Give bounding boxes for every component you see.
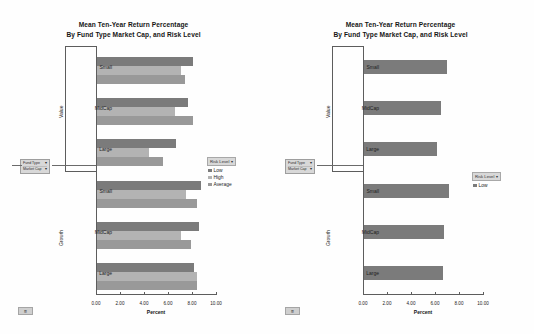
x-tick-3 [435, 292, 436, 295]
grid-icon: ▥ [24, 309, 27, 313]
filter-connector-line-right [52, 165, 96, 166]
bar-growth-small-avg[interactable] [97, 199, 197, 208]
x-axis-label: Percent [363, 309, 483, 315]
x-tick-0 [363, 292, 364, 295]
filter-row-market-cap[interactable]: Market Cap ▾ [23, 166, 47, 172]
x-tick-label-5: 10.00 [477, 301, 489, 306]
x-tick-2 [144, 292, 145, 295]
cat-label-value-small: Small [366, 64, 379, 70]
x-tick-4 [459, 292, 460, 295]
x-tick-0 [96, 292, 97, 295]
group-bracket-mid [332, 171, 364, 172]
bar-growth-small-low[interactable] [97, 181, 201, 190]
bar-growth-midcap-avg[interactable] [97, 240, 191, 249]
chart-panel-right: Mean Ten-Year Return Percentage By Fund … [267, 0, 534, 334]
legend-item-low[interactable]: Low [207, 168, 236, 173]
corner-badge-right[interactable]: ▥ [285, 307, 300, 315]
x-tick-3 [168, 292, 169, 295]
x-axis-line [363, 294, 484, 295]
x-tick-label-0: 0.00 [92, 301, 101, 306]
x-tick-2 [411, 292, 412, 295]
x-axis-label: Percent [96, 309, 216, 315]
filter-box-right[interactable]: Fund Type ▾ Market Cap ▾ [285, 159, 315, 174]
cat-label-value-small: Small [99, 64, 112, 70]
legend-header-risk-level[interactable]: Risk Level ▾ [472, 172, 501, 181]
legend-item-high[interactable]: High [207, 175, 236, 180]
legend-swatch-low-icon [473, 184, 477, 188]
cat-label-value-midcap: MidCap [95, 105, 112, 111]
legend-swatch-high-icon [208, 176, 212, 180]
cat-label-value-large: Large [99, 146, 112, 152]
chart-title-left: Mean Ten-Year Return Percentage By Fund … [0, 20, 267, 39]
bar-growth-midcap-low[interactable] [97, 222, 199, 231]
filter-connector-line [12, 165, 22, 166]
x-tick-1 [120, 292, 121, 295]
legend-header-label: Risk Level [475, 174, 494, 179]
bar-value-large-avg[interactable] [97, 157, 163, 166]
x-tick-5 [483, 292, 484, 295]
filter-label-fund-type: Fund Type [23, 161, 40, 166]
legend-label-average: Average [214, 182, 232, 187]
x-tick-label-4: 8.00 [455, 301, 464, 306]
cat-label-growth-small: Small [99, 188, 112, 194]
grid-icon: ▥ [291, 309, 294, 313]
chart-title-line1: Mean Ten-Year Return Percentage [346, 21, 456, 28]
legend-header-label: Risk Level [210, 159, 229, 164]
cat-label-growth-large: Large [99, 270, 112, 276]
group-label-value: Value [325, 106, 331, 118]
chart-title-right: Mean Ten-Year Return Percentage By Fund … [267, 20, 534, 39]
x-tick-4 [192, 292, 193, 295]
cat-label-growth-small: Small [366, 188, 379, 194]
x-tick-label-4: 8.00 [188, 301, 197, 306]
chevron-down-icon: ▾ [45, 161, 47, 166]
x-tick-label-1: 2.00 [383, 301, 392, 306]
filter-connector-line-right [317, 165, 363, 166]
x-tick-label-0: 0.00 [359, 301, 368, 306]
bar-growth-large-avg[interactable] [97, 281, 197, 290]
legend-item-low[interactable]: Low [472, 183, 501, 188]
legend-right: Risk Level ▾ Low [472, 172, 501, 188]
x-tick-5 [216, 292, 217, 295]
legend-header-risk-level[interactable]: Risk Level ▾ [207, 157, 236, 166]
group-bracket-left [65, 46, 66, 171]
legend-item-average[interactable]: Average [207, 182, 236, 187]
legend-left: Risk Level ▾ Low High Average [207, 157, 236, 187]
bar-value-small-avg[interactable] [97, 75, 185, 84]
chart-panel-left: Mean Ten-Year Return Percentage By Fund … [0, 0, 267, 334]
cat-label-growth-midcap: MidCap [362, 229, 379, 235]
legend-label-high: High [214, 175, 224, 180]
x-tick-label-3: 6.00 [164, 301, 173, 306]
filter-row-market-cap[interactable]: Market Cap ▾ [288, 166, 312, 172]
chevron-down-icon: ▾ [45, 167, 47, 172]
cat-label-growth-large: Large [366, 270, 379, 276]
group-label-value: Value [58, 106, 64, 118]
group-label-growth: Growth [58, 230, 64, 246]
x-tick-label-2: 4.00 [140, 301, 149, 306]
x-tick-label-2: 4.00 [407, 301, 416, 306]
plot-area-left: 0.00 2.00 4.00 6.00 8.00 10.00 Percent [96, 46, 216, 295]
chart-title-line1: Mean Ten-Year Return Percentage [79, 21, 189, 28]
filter-label-market-cap: Market Cap [288, 167, 307, 172]
group-bracket-left [332, 46, 333, 171]
chevron-down-icon: ▾ [310, 167, 312, 172]
corner-badge-left[interactable]: ▥ [18, 307, 33, 315]
group-label-growth: Growth [325, 230, 331, 246]
filter-box-left[interactable]: Fund Type ▾ Market Cap ▾ [20, 159, 50, 174]
group-bracket-top [332, 46, 364, 47]
x-tick-label-1: 2.00 [116, 301, 125, 306]
x-tick-1 [387, 292, 388, 295]
cat-label-growth-midcap: MidCap [95, 229, 112, 235]
legend-label-low: Low [214, 168, 223, 173]
bar-value-midcap-avg[interactable] [97, 116, 193, 125]
group-bracket-mid [65, 171, 97, 172]
chevron-down-icon: ▾ [496, 175, 498, 179]
filter-label-fund-type: Fund Type [288, 161, 305, 166]
x-tick-label-3: 6.00 [431, 301, 440, 306]
legend-swatch-average-icon [208, 183, 212, 187]
legend-label-low: Low [479, 183, 488, 188]
x-axis-line [96, 294, 217, 295]
filter-label-market-cap: Market Cap [23, 167, 42, 172]
chevron-down-icon: ▾ [231, 160, 233, 164]
group-bracket-top [65, 46, 97, 47]
chevron-down-icon: ▾ [310, 161, 312, 166]
